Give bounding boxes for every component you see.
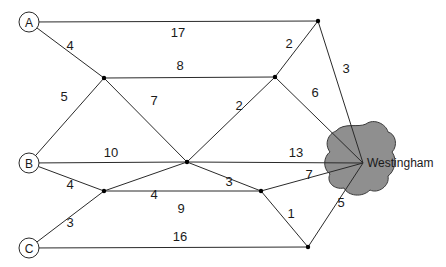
edge-J6-J7 <box>261 191 308 247</box>
junction-node-j4 <box>185 160 189 164</box>
edge-weight-label: 17 <box>171 25 185 40</box>
edge-weight-label: 9 <box>177 201 184 216</box>
edge-weight-label: 4 <box>66 38 73 53</box>
edge-weight-label: 3 <box>225 174 232 189</box>
edge-C-J7 <box>39 247 308 248</box>
junction-node-j1 <box>316 19 320 23</box>
edge-weight-label: 13 <box>289 145 303 160</box>
junction-node-j7 <box>306 245 310 249</box>
edge-J4-J6 <box>187 162 261 191</box>
edge-J2-J3 <box>104 77 275 78</box>
edge-J3-J1 <box>275 21 318 77</box>
edge-weight-label: 5 <box>60 89 67 104</box>
edge-weight-label: 16 <box>173 229 187 244</box>
edge-weight-label: 2 <box>235 98 242 113</box>
edge-weight-label: 7 <box>150 93 157 108</box>
junction-node-j3 <box>273 75 277 79</box>
junction-node-j2 <box>102 76 106 80</box>
city-label-westingham: Westingham <box>367 156 433 170</box>
edge-weight-label: 8 <box>176 58 183 73</box>
junction-node-j5 <box>102 189 106 193</box>
edge-weight-label: 4 <box>150 187 157 202</box>
edge-weight-label: 5 <box>337 195 344 210</box>
network-svg: 174857236210134439731165 ABC Westingham <box>0 0 446 267</box>
edge-J4-J3 <box>187 77 275 162</box>
node-label: B <box>25 157 33 171</box>
edge-B-J2 <box>36 78 104 156</box>
junction-node-j6 <box>259 189 263 193</box>
edge-weight-label: 7 <box>305 167 312 182</box>
node-label: C <box>25 242 34 256</box>
edge-weight-label: 1 <box>287 206 294 221</box>
edge-A-J1 <box>39 21 318 22</box>
edge-weight-label: 4 <box>66 177 73 192</box>
edge-weight-label: 2 <box>285 36 292 51</box>
edge-weight-label: 3 <box>342 61 349 76</box>
edge-B-J4 <box>39 162 187 163</box>
source-node-b: B <box>19 153 39 173</box>
edge-weight-label: 3 <box>66 215 73 230</box>
edge-weight-label: 6 <box>311 85 318 100</box>
source-node-c: C <box>19 238 39 258</box>
network-diagram: 174857236210134439731165 ABC Westingham <box>0 0 446 267</box>
source-node-a: A <box>19 12 39 32</box>
node-label: A <box>25 16 33 30</box>
edge-weight-label: 10 <box>104 145 118 160</box>
edge-J5-J4 <box>104 162 187 191</box>
